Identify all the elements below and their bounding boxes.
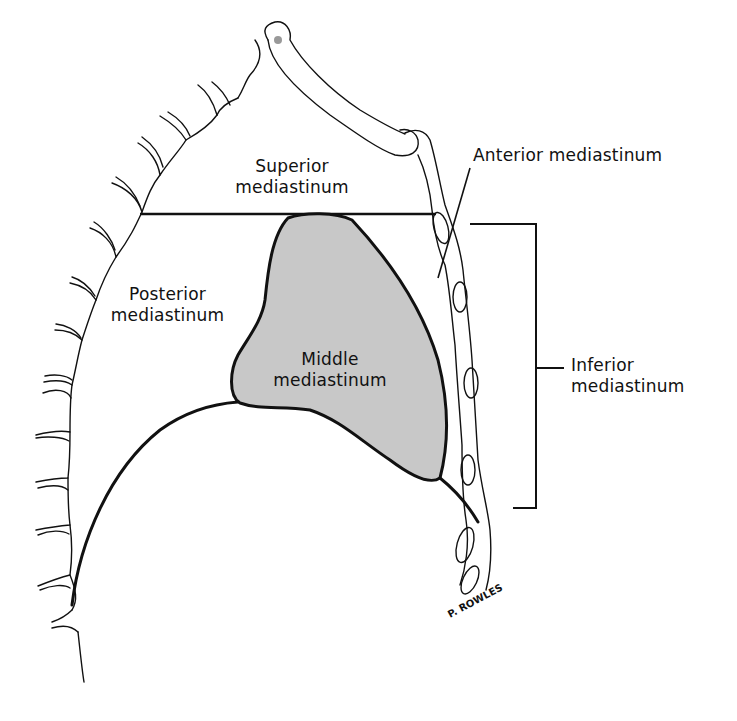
label-middle-mediastinum: Middle mediastinum: [260, 349, 400, 391]
label-line: mediastinum: [100, 305, 235, 326]
diaphragm-curve: [72, 402, 238, 605]
label-line: Inferior: [571, 355, 685, 376]
first-rib: [265, 22, 418, 156]
vertebral-column: [36, 40, 260, 682]
artist-signature: P. ROWLES: [446, 582, 505, 620]
label-posterior-mediastinum: Posterior mediastinum: [100, 284, 235, 326]
label-anterior-mediastinum: Anterior mediastinum: [473, 145, 662, 166]
label-line: Posterior: [100, 284, 235, 305]
label-inferior-mediastinum: Inferior mediastinum: [571, 355, 685, 397]
label-line: mediastinum: [260, 370, 400, 391]
inferior-bracket: [470, 224, 564, 508]
label-line: Anterior mediastinum: [473, 145, 662, 165]
label-superior-mediastinum: Superior mediastinum: [222, 156, 362, 198]
label-line: mediastinum: [222, 177, 362, 198]
anterior-pointer-line: [438, 168, 470, 278]
middle-mediastinum-region: [232, 214, 447, 481]
label-line: Middle: [260, 349, 400, 370]
label-line: Superior: [222, 156, 362, 177]
label-line: mediastinum: [571, 376, 685, 397]
